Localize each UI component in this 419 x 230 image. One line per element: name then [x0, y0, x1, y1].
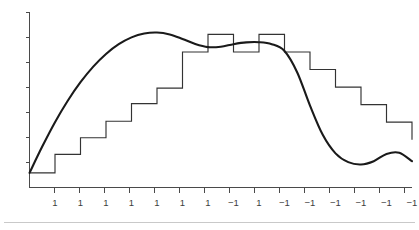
- step-quantizer-chart: 1111111−11−1−1−1−1−1−1: [0, 0, 419, 230]
- x-axis-ticks: [55, 188, 405, 193]
- x-tick-label: 1: [52, 197, 57, 208]
- x-tick-label: −1: [355, 197, 366, 208]
- x-tick-label: 1: [103, 197, 108, 208]
- y-axis-ticks: [26, 13, 30, 163]
- step-quantizer-path: [30, 34, 413, 172]
- footer-divider: [4, 222, 415, 223]
- x-tick-label: 1: [205, 197, 210, 208]
- x-tick-label: 1: [78, 197, 83, 208]
- x-tick-label: −1: [381, 197, 392, 208]
- x-tick-label: −1: [304, 197, 315, 208]
- x-tick-label: 1: [256, 197, 261, 208]
- x-tick-label: −1: [228, 197, 239, 208]
- x-tick-label: 1: [180, 197, 185, 208]
- x-tick-label: −1: [279, 197, 290, 208]
- smooth-signal-curve: [30, 32, 413, 172]
- x-tick-label-group: 1111111−11−1−1−1−1−1−1: [52, 197, 417, 208]
- x-tick-label: 1: [154, 197, 159, 208]
- x-tick-label: 1: [129, 197, 134, 208]
- figure-root: 1111111−11−1−1−1−1−1−1: [0, 0, 419, 230]
- x-tick-label: −1: [406, 197, 417, 208]
- x-tick-label: −1: [330, 197, 341, 208]
